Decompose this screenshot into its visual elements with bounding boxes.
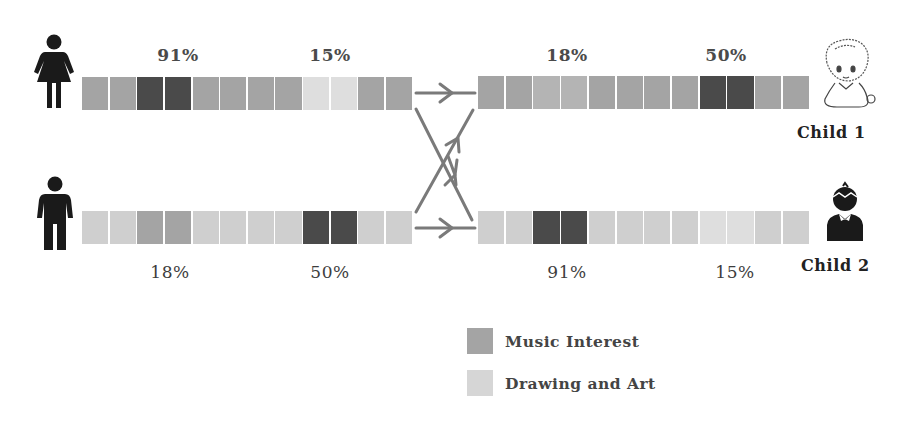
boy-icon <box>823 183 869 243</box>
baby-icon <box>815 33 881 113</box>
legend-swatch-music <box>467 328 493 354</box>
child2-label: Child 2 <box>801 256 870 275</box>
legend-label-music: Music Interest <box>505 332 639 351</box>
legend-swatch-drawing <box>467 370 493 396</box>
legend-label-drawing: Drawing and Art <box>505 374 656 393</box>
inheritance-arrows <box>0 0 911 425</box>
child1-label: Child 1 <box>797 123 866 142</box>
